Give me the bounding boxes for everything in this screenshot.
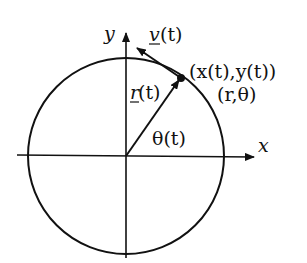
circular-motion-diagram: y x v (t) r (t) (x(t),y(t)) (r,θ) θ(t) [0, 0, 307, 263]
x-axis [17, 155, 254, 157]
x-axis-label: x [258, 134, 269, 156]
position-label: r (t) [130, 81, 160, 103]
velocity-vector-arrow [137, 48, 181, 78]
velocity-label: v (t) [149, 23, 182, 45]
point-polar-label: (r,θ) [217, 83, 256, 105]
svg-text:(t): (t) [138, 81, 160, 103]
y-axis-label: y [103, 22, 115, 44]
angle-label: θ(t) [152, 127, 186, 149]
svg-text:v: v [149, 23, 160, 45]
svg-text:(t): (t) [160, 23, 182, 45]
particle-point [177, 74, 185, 82]
point-cartesian-label: (x(t),y(t)) [189, 60, 276, 82]
